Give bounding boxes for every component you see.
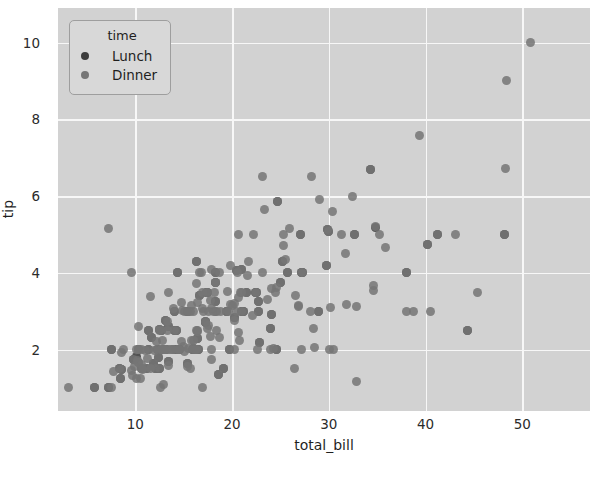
data-point <box>501 164 510 173</box>
data-point <box>267 310 276 319</box>
data-point <box>260 205 269 214</box>
data-point <box>283 268 292 277</box>
data-point <box>235 336 244 345</box>
data-point <box>193 334 202 343</box>
data-point <box>254 297 263 306</box>
data-point <box>326 303 335 312</box>
x-tick-label: 30 <box>320 416 337 432</box>
data-point <box>526 38 535 47</box>
data-point <box>90 383 99 392</box>
data-point <box>146 292 155 301</box>
data-point <box>201 317 210 326</box>
data-point <box>211 278 220 287</box>
data-point <box>323 225 332 234</box>
data-point <box>207 355 216 364</box>
data-point <box>276 278 285 287</box>
data-point <box>132 345 141 354</box>
data-point <box>249 230 258 239</box>
data-point <box>271 288 280 297</box>
data-point <box>381 243 390 252</box>
data-point <box>134 322 143 331</box>
legend[interactable]: time LunchDinner <box>69 20 171 95</box>
data-point <box>170 307 179 316</box>
data-point <box>192 326 201 335</box>
data-point <box>258 172 267 181</box>
data-point <box>210 288 219 297</box>
scatter-plot-figure: 1020304050 246810 total_bill tip time Lu… <box>0 0 606 484</box>
data-point <box>433 230 442 239</box>
data-point <box>116 374 125 383</box>
legend-title: time <box>87 28 157 43</box>
data-point <box>290 364 299 373</box>
x-tick-label: 20 <box>224 416 241 432</box>
data-point <box>214 370 223 379</box>
data-point <box>348 192 357 201</box>
data-point <box>350 230 359 239</box>
data-point <box>253 345 262 354</box>
data-point <box>307 172 316 181</box>
data-point <box>248 311 257 320</box>
data-point <box>198 383 207 392</box>
data-point <box>156 383 165 392</box>
y-tick-label: 10 <box>23 35 40 51</box>
data-point <box>285 224 294 233</box>
data-point <box>107 345 116 354</box>
data-point <box>215 333 224 342</box>
data-point <box>463 326 472 335</box>
legend-item-label: Lunch <box>112 48 152 64</box>
data-point <box>341 249 350 258</box>
data-point <box>192 257 201 266</box>
gridline-horizontal <box>58 119 590 121</box>
data-point <box>164 288 173 297</box>
gridline-horizontal <box>58 196 590 198</box>
data-point <box>409 307 418 316</box>
data-point <box>451 230 460 239</box>
data-point <box>192 279 201 288</box>
data-point <box>328 207 337 216</box>
data-point <box>273 197 282 206</box>
data-point <box>236 288 245 297</box>
data-point <box>297 345 306 354</box>
y-tick-label: 2 <box>31 342 40 358</box>
data-point <box>216 307 225 316</box>
data-point <box>160 345 169 354</box>
data-point <box>500 230 509 239</box>
legend-item-label: Dinner <box>112 67 157 83</box>
x-tick-label: 40 <box>417 416 434 432</box>
data-point <box>266 324 275 333</box>
data-point <box>258 268 267 277</box>
data-point <box>291 291 300 300</box>
y-tick-label: 4 <box>31 265 40 281</box>
data-point <box>107 383 116 392</box>
data-point <box>215 268 224 277</box>
y-tick-label: 8 <box>31 111 40 127</box>
data-point <box>104 224 113 233</box>
data-point <box>163 326 172 335</box>
data-point <box>233 268 242 277</box>
data-point <box>342 300 351 309</box>
data-point <box>473 288 482 297</box>
data-point <box>423 240 432 249</box>
data-point <box>502 76 511 85</box>
gridline-horizontal <box>58 273 590 275</box>
y-tick-label: 6 <box>31 188 40 204</box>
data-point <box>138 365 147 374</box>
data-point <box>314 307 323 316</box>
y-axis-label: tip <box>0 200 16 218</box>
legend-marker-icon <box>81 52 89 60</box>
data-point <box>164 361 173 370</box>
data-point <box>415 131 424 140</box>
data-point <box>186 364 195 373</box>
legend-marker-icon <box>81 71 89 79</box>
legend-item-lunch[interactable]: Lunch <box>81 48 157 64</box>
data-point <box>117 348 126 357</box>
legend-entries: LunchDinner <box>81 48 157 83</box>
data-point <box>298 268 307 277</box>
data-point <box>207 345 216 354</box>
legend-item-dinner[interactable]: Dinner <box>81 67 157 83</box>
data-point <box>296 230 305 239</box>
x-tick-label: 50 <box>514 416 531 432</box>
data-point <box>132 374 141 383</box>
data-point <box>195 268 204 277</box>
data-point <box>173 268 182 277</box>
